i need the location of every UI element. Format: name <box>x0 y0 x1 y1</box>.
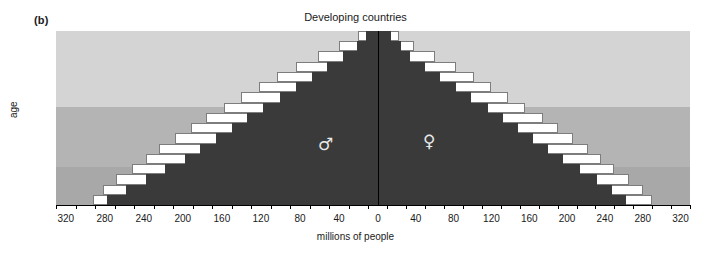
bar-left-current-70-74 <box>343 51 378 61</box>
bar-left-current-60-64 <box>312 72 378 82</box>
x-tick-mark <box>290 205 291 209</box>
x-tick-mark <box>614 205 615 209</box>
bar-left-current-20-24 <box>185 154 378 164</box>
bar-left-current-30-34 <box>216 133 378 143</box>
x-tick-mark <box>444 205 445 209</box>
bar-left-current-75-79 <box>357 41 378 51</box>
x-tick-mark <box>251 205 252 209</box>
x-tick-mark <box>329 205 330 209</box>
bar-left-current-45-49 <box>263 103 378 113</box>
bar-right-current-55-59 <box>378 82 456 92</box>
x-tick-label-120: 120 <box>471 213 511 224</box>
pyramid-bars <box>56 31 690 205</box>
bar-left-current-25-29 <box>200 144 378 154</box>
x-tick-label--200: 200 <box>163 213 203 224</box>
bar-right-current-70-74 <box>378 51 410 61</box>
x-tick-mark <box>173 205 174 209</box>
x-tick-mark <box>577 205 578 209</box>
x-tick-mark <box>539 205 540 209</box>
x-tick-mark <box>368 205 369 209</box>
bar-right-current-40-44 <box>378 113 503 123</box>
bar-left-current-55-59 <box>296 82 378 92</box>
y-axis-label: age <box>8 101 19 118</box>
x-tick-label-40: 40 <box>396 213 436 224</box>
x-tick-mark <box>115 205 116 209</box>
x-tick-mark <box>520 205 521 209</box>
x-tick-mark <box>56 205 57 209</box>
x-tick-label-160: 160 <box>509 213 549 224</box>
bar-right-current-15-19 <box>378 164 580 174</box>
x-tick-mark <box>652 205 653 209</box>
x-tick-label-320: 320 <box>661 213 701 224</box>
plot-area: ♂ ♀ <box>56 31 690 205</box>
bar-left-current-10-14 <box>146 174 378 184</box>
x-tick-label-240: 240 <box>585 213 625 224</box>
x-tick-mark <box>76 205 77 209</box>
bar-right-current-50-54 <box>378 92 471 102</box>
bar-right-current-35-39 <box>378 123 518 133</box>
x-tick-mark <box>482 205 483 209</box>
figure-panel: (b) Developing countries age 01020304050… <box>0 0 711 255</box>
x-tick-mark <box>232 205 233 209</box>
bar-right-current-30-34 <box>378 133 533 143</box>
x-tick-mark <box>501 205 502 209</box>
bar-left-current-50-54 <box>280 92 378 102</box>
bar-right-current-60-64 <box>378 72 440 82</box>
x-tick-mark <box>271 205 272 209</box>
x-tick-label--40: 40 <box>319 213 359 224</box>
x-tick-label--320: 320 <box>46 213 86 224</box>
x-tick-label-280: 280 <box>623 213 663 224</box>
bar-right-current-5-9 <box>378 185 612 195</box>
bar-right-current-0-4 <box>378 195 626 205</box>
x-tick-mark <box>193 205 194 209</box>
x-tick-mark <box>463 205 464 209</box>
female-symbol-icon: ♀ <box>423 133 435 150</box>
chart-title: Developing countries <box>0 11 711 23</box>
bar-right-current-20-24 <box>378 154 563 164</box>
bar-right-current-75-79 <box>378 41 401 51</box>
x-tick-mark <box>406 205 407 209</box>
x-tick-mark <box>633 205 634 209</box>
bar-right-current-25-29 <box>378 144 548 154</box>
bar-left-current-5-9 <box>126 185 378 195</box>
x-tick-label-200: 200 <box>547 213 587 224</box>
zero-axis-line <box>378 31 379 205</box>
x-axis: 3202802402001601208040040801201602002402… <box>0 205 711 255</box>
bar-left-current-35-39 <box>232 123 378 133</box>
x-tick-mark <box>212 205 213 209</box>
x-tick-mark <box>425 205 426 209</box>
x-tick-mark <box>558 205 559 209</box>
male-symbol-icon: ♂ <box>318 136 333 153</box>
x-tick-label--160: 160 <box>202 213 242 224</box>
bar-right-current-10-14 <box>378 174 597 184</box>
bar-right-current-80-84 <box>378 31 391 41</box>
x-tick-mark <box>690 205 691 209</box>
bar-right-current-45-49 <box>378 103 488 113</box>
x-tick-label-80: 80 <box>434 213 474 224</box>
x-tick-mark <box>595 205 596 209</box>
bar-right-current-65-69 <box>378 62 425 72</box>
bar-left-current-65-69 <box>327 62 378 72</box>
x-tick-label--80: 80 <box>280 213 320 224</box>
bar-left-current-40-44 <box>247 113 378 123</box>
x-tick-label-0: 0 <box>358 213 398 224</box>
x-tick-mark <box>95 205 96 209</box>
x-tick-label--240: 240 <box>124 213 164 224</box>
bar-left-current-80-84 <box>366 31 378 41</box>
x-tick-mark <box>310 205 311 209</box>
x-tick-label--280: 280 <box>85 213 125 224</box>
x-tick-mark <box>134 205 135 209</box>
x-tick-mark <box>387 205 388 209</box>
bar-left-current-0-4 <box>107 195 378 205</box>
x-tick-mark <box>349 205 350 209</box>
x-tick-label--120: 120 <box>241 213 281 224</box>
x-tick-mark <box>154 205 155 209</box>
x-tick-mark <box>671 205 672 209</box>
bar-left-current-15-19 <box>165 164 378 174</box>
x-axis-label: millions of people <box>0 231 711 242</box>
